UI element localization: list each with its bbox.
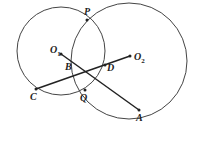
label-d: D: [107, 63, 114, 73]
label-b: B: [65, 62, 72, 72]
diagram-canvas: [0, 0, 199, 142]
label-a: A: [136, 113, 143, 123]
point-o2: [129, 55, 132, 58]
point-p: [86, 19, 89, 22]
circle-o1: [17, 7, 105, 95]
label-c: C: [30, 92, 37, 102]
label-q: Q: [80, 93, 87, 103]
label-o1-sub: 1: [57, 50, 61, 58]
segment-o1-a: [61, 54, 139, 110]
segment-c-o2: [36, 56, 130, 89]
label-o1: O1: [50, 45, 61, 58]
label-o2: O2: [134, 52, 145, 65]
label-o2-sub: 2: [141, 57, 145, 65]
label-p: P: [84, 7, 90, 17]
geometry-diagram: P O1 O2 B D C Q A: [0, 0, 199, 142]
